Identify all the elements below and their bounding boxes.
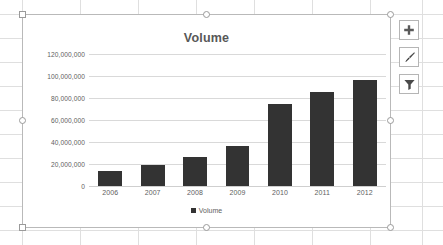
resize-handle-bottom-right[interactable] xyxy=(387,224,394,231)
paintbrush-icon xyxy=(403,51,416,64)
funnel-icon xyxy=(403,78,416,91)
bar-2010[interactable] xyxy=(268,104,292,187)
x-axis-tick-label: 2008 xyxy=(174,189,216,196)
resize-handle-top-left[interactable] xyxy=(19,11,26,18)
x-axis: 2006 2007 2008 2009 2010 2011 2012 xyxy=(89,189,386,196)
bar-slot xyxy=(174,54,216,186)
bar-series-volume[interactable] xyxy=(89,54,386,186)
y-axis-tick-label: 40,000,000 xyxy=(23,139,85,146)
sheet-gridline-vertical xyxy=(422,0,423,245)
bar-2007[interactable] xyxy=(141,165,165,186)
resize-handle-bottom-left[interactable] xyxy=(19,224,26,231)
y-axis-tick-label: 0 xyxy=(23,183,85,190)
bar-slot xyxy=(301,54,343,186)
resize-handle-top-right[interactable] xyxy=(387,11,394,18)
y-axis-tick-label: 60,000,000 xyxy=(23,117,85,124)
y-axis-tick-label: 20,000,000 xyxy=(23,160,85,167)
chart-legend[interactable]: Volume xyxy=(23,207,390,214)
plot-area[interactable] xyxy=(89,54,386,186)
bar-slot xyxy=(89,54,131,186)
chart-styles-button[interactable] xyxy=(399,47,419,67)
y-axis: 120,000,000 100,000,000 80,000,000 60,00… xyxy=(23,54,85,186)
legend-swatch-icon xyxy=(191,208,196,213)
x-axis-line xyxy=(89,186,386,187)
x-axis-tick-label: 2010 xyxy=(259,189,301,196)
bar-2009[interactable] xyxy=(226,146,250,186)
x-axis-tick-label: 2009 xyxy=(216,189,258,196)
bar-slot xyxy=(344,54,386,186)
x-axis-tick-label: 2006 xyxy=(89,189,131,196)
y-axis-tick-label: 120,000,000 xyxy=(23,51,85,58)
bar-2008[interactable] xyxy=(183,157,207,186)
chart-filters-button[interactable] xyxy=(399,74,419,94)
resize-handle-middle-left[interactable] xyxy=(19,117,26,124)
x-axis-tick-label: 2012 xyxy=(344,189,386,196)
bar-slot xyxy=(131,54,173,186)
sheet-gridline-horizontal xyxy=(0,230,443,231)
bar-2006[interactable] xyxy=(98,171,122,186)
y-axis-tick-label: 80,000,000 xyxy=(23,94,85,101)
y-axis-tick-label: 100,000,000 xyxy=(23,73,85,80)
legend-entry-volume: Volume xyxy=(199,207,222,214)
bar-slot xyxy=(216,54,258,186)
plus-icon xyxy=(403,24,415,36)
resize-handle-middle-right[interactable] xyxy=(387,117,394,124)
bar-2012[interactable] xyxy=(353,80,377,186)
x-axis-tick-label: 2007 xyxy=(131,189,173,196)
chart-title[interactable]: Volume xyxy=(23,31,390,45)
x-axis-tick-label: 2011 xyxy=(301,189,343,196)
chart-object[interactable]: Volume 120,000,000 100,000,000 80,000,00… xyxy=(22,14,391,228)
resize-handle-top-center[interactable] xyxy=(203,11,210,18)
chart-elements-button[interactable] xyxy=(399,20,419,40)
bar-slot xyxy=(259,54,301,186)
resize-handle-bottom-center[interactable] xyxy=(203,224,210,231)
bar-2011[interactable] xyxy=(310,92,334,186)
chart-side-buttons xyxy=(399,20,419,94)
